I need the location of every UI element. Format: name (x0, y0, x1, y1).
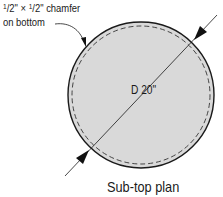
chamfer-note: 1/2" × 1/2" chamfer on bottom (3, 2, 80, 29)
sub-top-plan-diagram: 1/2" × 1/2" chamfer on bottom D 20" Sub-… (0, 0, 223, 197)
chamfer-note-line1: 1/2" × 1/2" chamfer (3, 2, 80, 16)
diagram-caption: Sub-top plan (107, 178, 179, 195)
plan-drawing (0, 0, 223, 197)
leader-arrowhead-icon (81, 37, 86, 47)
chamfer-note-line2: on bottom (3, 16, 80, 30)
diameter-label: D 20" (131, 83, 156, 97)
